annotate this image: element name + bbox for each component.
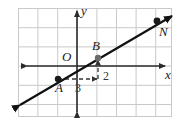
coordinate-plane-figure: y x O A B N 3 2 — [0, 0, 182, 123]
rise-length-label: 2 — [103, 70, 109, 82]
origin-label: O — [62, 50, 71, 63]
point-b-label: B — [92, 39, 100, 52]
point-a-label: A — [55, 81, 63, 94]
graph-line — [20, 16, 172, 105]
run-length-label: 3 — [75, 82, 81, 94]
point-b-marker — [95, 55, 101, 61]
grid-lines — [18, 8, 172, 117]
y-axis-label: y — [81, 4, 87, 17]
point-n-label: N — [159, 25, 168, 38]
graph-canvas — [0, 0, 182, 123]
x-axis-label: x — [165, 68, 171, 81]
